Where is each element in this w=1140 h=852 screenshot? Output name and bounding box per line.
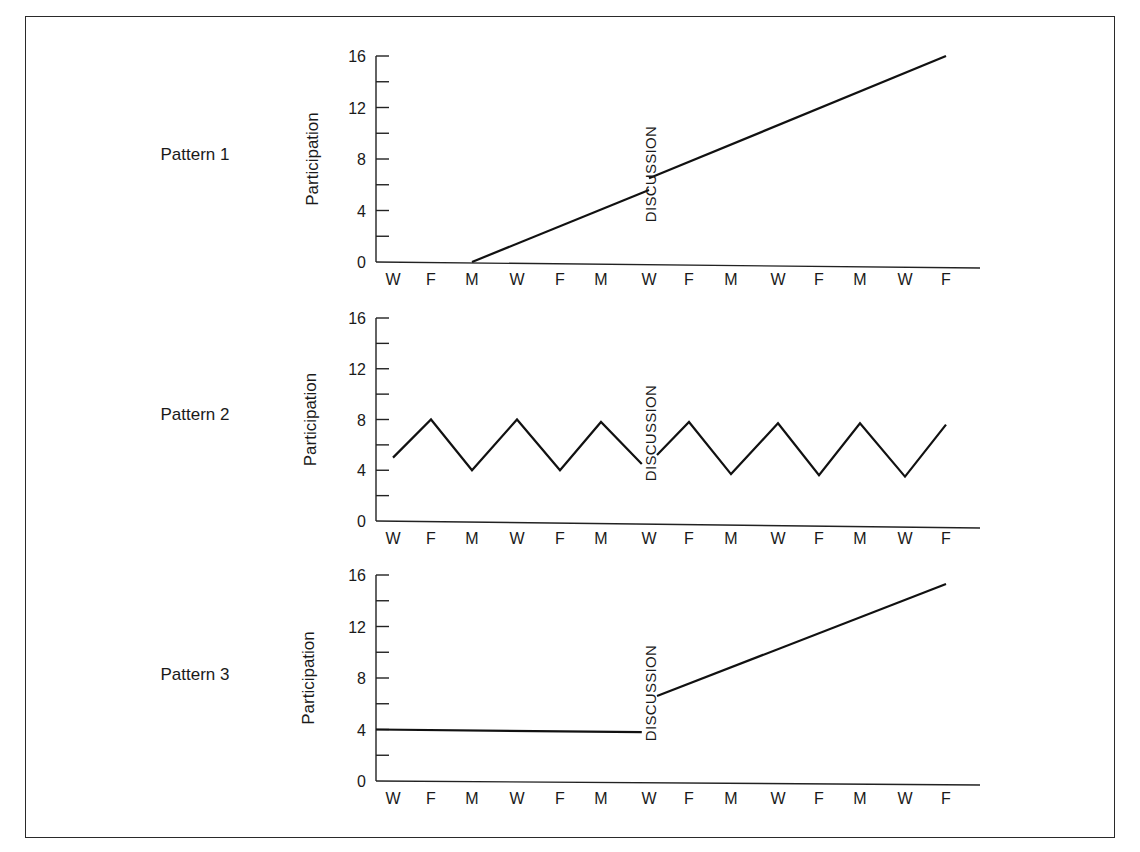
x-tick-label: M xyxy=(594,271,607,288)
x-tick-label: M xyxy=(594,790,607,807)
y-axis-label: Participation xyxy=(303,112,322,206)
x-tick-label: M xyxy=(724,271,737,288)
x-tick-label: F xyxy=(814,271,824,288)
y-tick-label: 4 xyxy=(357,203,366,220)
x-tick-label: M xyxy=(724,790,737,807)
x-tick-label: W xyxy=(385,530,401,547)
x-tick-label: M xyxy=(853,530,866,547)
y-tick-label: 4 xyxy=(357,462,366,479)
x-tick-label: W xyxy=(641,271,657,288)
x-tick-label: F xyxy=(941,530,951,547)
x-tick-label: M xyxy=(853,271,866,288)
x-tick-label: M xyxy=(465,271,478,288)
y-tick-label: 8 xyxy=(357,670,366,687)
x-tick-label: F xyxy=(555,271,565,288)
x-tick-label: F xyxy=(684,530,694,547)
x-axis-line xyxy=(376,781,980,785)
y-tick-label: 12 xyxy=(348,100,366,117)
series-before xyxy=(376,730,642,733)
y-tick-label: 0 xyxy=(357,773,366,790)
x-tick-label: F xyxy=(814,530,824,547)
x-tick-label: W xyxy=(641,790,657,807)
series-after xyxy=(649,56,946,178)
series-after xyxy=(657,422,946,477)
y-tick-label: 0 xyxy=(357,513,366,530)
x-tick-label: F xyxy=(426,271,436,288)
pattern-label: Pattern 1 xyxy=(161,145,230,164)
x-tick-label: W xyxy=(385,271,401,288)
x-tick-label: W xyxy=(770,530,786,547)
x-tick-label: W xyxy=(770,790,786,807)
x-tick-label: M xyxy=(465,530,478,547)
series-after xyxy=(657,584,946,696)
x-tick-label: W xyxy=(897,271,913,288)
y-tick-label: 8 xyxy=(357,151,366,168)
x-tick-label: W xyxy=(509,271,525,288)
y-tick-label: 12 xyxy=(348,361,366,378)
x-tick-label: W xyxy=(385,790,401,807)
x-axis-line xyxy=(376,521,980,528)
series-before xyxy=(472,190,649,262)
x-tick-label: W xyxy=(509,790,525,807)
x-tick-label: M xyxy=(465,790,478,807)
pattern-label: Pattern 3 xyxy=(161,665,230,684)
x-tick-label: M xyxy=(594,530,607,547)
participation-patterns-chart: Pattern 1Participation0481216WFMWFMWFMWF… xyxy=(0,0,1140,852)
discussion-annotation: DISCUSSION xyxy=(642,126,659,222)
y-tick-label: 12 xyxy=(348,619,366,636)
x-tick-label: W xyxy=(509,530,525,547)
x-tick-label: F xyxy=(684,271,694,288)
x-tick-label: M xyxy=(853,790,866,807)
discussion-annotation: DISCUSSION xyxy=(642,385,659,481)
x-tick-label: W xyxy=(897,790,913,807)
y-tick-label: 8 xyxy=(357,412,366,429)
y-axis-label: Participation xyxy=(299,631,318,725)
y-tick-label: 4 xyxy=(357,722,366,739)
x-tick-label: W xyxy=(641,530,657,547)
y-tick-label: 16 xyxy=(348,48,366,65)
x-tick-label: F xyxy=(814,790,824,807)
x-tick-label: M xyxy=(724,530,737,547)
x-tick-label: F xyxy=(684,790,694,807)
y-axis-label: Participation xyxy=(301,373,320,467)
x-tick-label: F xyxy=(426,790,436,807)
x-tick-label: F xyxy=(941,271,951,288)
y-tick-label: 16 xyxy=(348,310,366,327)
x-tick-label: F xyxy=(426,530,436,547)
x-axis-line xyxy=(376,262,980,268)
x-tick-label: F xyxy=(555,530,565,547)
series-before xyxy=(393,420,642,471)
x-tick-label: W xyxy=(770,271,786,288)
discussion-annotation: DISCUSSION xyxy=(642,645,659,741)
pattern-label: Pattern 2 xyxy=(161,405,230,424)
x-tick-label: W xyxy=(897,530,913,547)
y-tick-label: 16 xyxy=(348,567,366,584)
x-tick-label: F xyxy=(941,790,951,807)
x-tick-label: F xyxy=(555,790,565,807)
y-tick-label: 0 xyxy=(357,254,366,271)
